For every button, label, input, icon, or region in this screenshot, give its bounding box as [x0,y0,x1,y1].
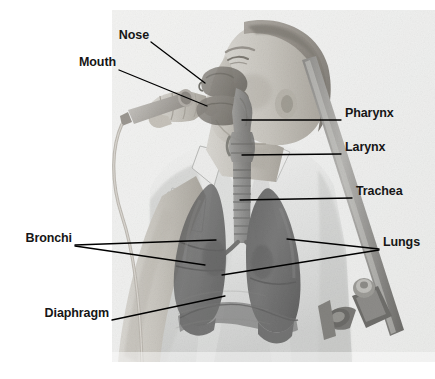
label-nose: Nose [117,29,149,42]
leader-line-trachea [240,198,352,200]
label-bronchi: Bronchi [22,232,72,245]
label-diaphragm: Diaphragm [40,307,109,320]
label-pharynx: Pharynx [345,107,394,120]
label-mouth: Mouth [70,56,116,69]
leader-line-larynx [242,154,341,155]
label-trachea: Trachea [356,185,403,198]
leader-line-bronchi-1 [75,240,216,245]
leader-line-mouth [119,70,207,106]
leader-line-lungs-1 [287,239,379,249]
leader-line-lungs-2 [222,250,379,275]
label-larynx: Larynx [345,141,385,154]
label-lungs: Lungs [383,236,420,249]
leader-line-diaphragm [112,296,225,320]
anatomy-figure: Nose Mouth Pharynx Larynx Trachea Bronch… [0,0,435,379]
leader-line-nose [151,42,205,83]
leader-line-bronchi-2 [75,246,205,265]
